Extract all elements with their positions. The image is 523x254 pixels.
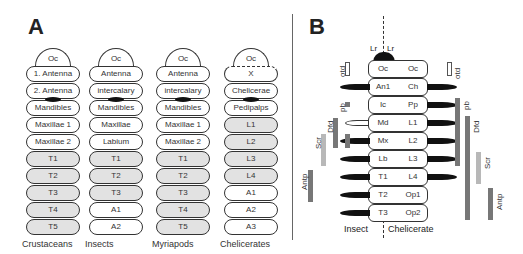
chelicerate-appendage — [427, 156, 457, 162]
column-label: Crustaceans — [22, 239, 73, 249]
segment: T2 — [26, 168, 80, 184]
right-gene-bar-otd — [447, 62, 452, 76]
insect-appendage — [340, 156, 370, 162]
segment: T1 — [89, 151, 143, 167]
mouth-blob — [175, 97, 191, 102]
mandible-appendage — [345, 120, 369, 126]
segment: L2 — [224, 134, 278, 150]
segment: T2 — [156, 168, 210, 184]
chelicerate-cell: L3 — [398, 154, 428, 163]
chelicerate-cell: L1 — [398, 118, 428, 127]
chelicerate-cell: L4 — [398, 172, 428, 181]
segment: Antenna — [89, 66, 143, 82]
right-gene-bar-antp — [488, 188, 493, 220]
segment: L3 — [224, 151, 278, 167]
chelicerate-appendage — [427, 102, 457, 108]
mouth-blob — [108, 97, 124, 102]
segment: A2 — [224, 202, 278, 218]
segment: T5 — [26, 219, 80, 235]
labrum-label-left: Lr — [370, 44, 377, 53]
segment: Maxillae 1 — [26, 117, 80, 133]
segment: Maxillae 1 — [156, 117, 210, 133]
right-gene-label: Dfd — [472, 121, 481, 133]
insect-appendage — [340, 192, 370, 198]
panel-a-letter: A — [28, 14, 44, 40]
chelicerate-cell: Oc — [398, 64, 428, 73]
ocular-cap: Oc — [98, 48, 134, 66]
insect-cell: An1 — [368, 82, 398, 91]
segment: Antenna — [156, 66, 210, 82]
segment: A3 — [224, 219, 278, 235]
panel-b-letter: B — [309, 14, 325, 40]
chelicerate-appendage — [427, 84, 457, 90]
segment: T4 — [26, 202, 80, 218]
segment: 1. Antenna — [26, 66, 80, 82]
segment: T5 — [156, 219, 210, 235]
chelicerate-cell: L2 — [398, 136, 428, 145]
segment: T1 — [26, 151, 80, 167]
right-gene-label: Scr — [483, 157, 492, 169]
column-label: Chelicerates — [220, 239, 270, 249]
ocular-cap: Oc — [165, 48, 201, 66]
segment: Maxillae 2 — [26, 134, 80, 150]
segment: T1 — [156, 151, 210, 167]
right-gene-label: otd — [453, 68, 462, 79]
segment: A1 — [224, 185, 278, 201]
segment: Maxillae — [89, 117, 143, 133]
insect-appendage — [340, 210, 370, 216]
ocular-cap: Oc — [233, 48, 269, 66]
insect-appendage — [340, 174, 370, 180]
insect-cell: Oc — [368, 64, 398, 73]
segment: Pedipalps — [224, 100, 278, 116]
insect-cell: T1 — [368, 172, 398, 181]
insect-label: Insect — [344, 224, 368, 234]
segment: T3 — [89, 185, 143, 201]
segment: L1 — [224, 117, 278, 133]
chelicerate-cell: Op2 — [398, 208, 428, 217]
left-gene-label: otd — [338, 66, 347, 77]
panel-divider — [292, 14, 293, 240]
chelicerate-label: Chelicerate — [388, 224, 434, 234]
ocular-cap: Oc — [35, 48, 71, 66]
right-gene-label: pb — [462, 101, 471, 110]
segment: Mandibles — [156, 100, 210, 116]
segment: X — [224, 66, 278, 82]
chelicerate-appendage — [427, 174, 457, 180]
right-gene-bar-scr — [476, 152, 481, 184]
segment: T4 — [156, 202, 210, 218]
right-gene-bar-dfd — [465, 116, 470, 220]
column-label: Myriapods — [152, 239, 194, 249]
column-label: Insects — [85, 239, 114, 249]
insect-appendage — [340, 84, 370, 90]
segment: T3 — [156, 185, 210, 201]
segment: A2 — [89, 219, 143, 235]
segment: Maxillae 2 — [156, 134, 210, 150]
chelicerate-appendage — [427, 120, 457, 126]
left-gene-bar-dfd-2 — [345, 134, 350, 148]
right-gene-label: Antp — [495, 194, 504, 210]
chelicerate-appendage — [427, 138, 457, 144]
insect-cell: Lb — [368, 154, 398, 163]
insect-cell: Ic — [368, 100, 398, 109]
mouth-blob — [45, 97, 61, 102]
chelicerate-cell: Op1 — [398, 190, 428, 199]
insect-cell: T3 — [368, 208, 398, 217]
insect-cell: Md — [368, 118, 398, 127]
insect-cell: Mx — [368, 136, 398, 145]
segment: Mandibles — [26, 100, 80, 116]
segment: L4 — [224, 168, 278, 184]
chelicerate-cell: Ch — [398, 82, 428, 91]
left-gene-label: Dfd — [326, 121, 335, 133]
insect-cell: T2 — [368, 190, 398, 199]
segment: A1 — [89, 202, 143, 218]
left-gene-label: pb — [338, 103, 347, 112]
segment: T3 — [26, 185, 80, 201]
chelicerate-cell: Pp — [398, 100, 428, 109]
right-gene-bar-pb — [455, 98, 460, 166]
segment: T2 — [89, 168, 143, 184]
left-gene-label: Scr — [314, 137, 323, 149]
segment: Mandibles — [89, 100, 143, 116]
segment: Labium — [89, 134, 143, 150]
mouth-blob — [243, 97, 259, 102]
left-gene-label: Antp — [300, 174, 309, 190]
